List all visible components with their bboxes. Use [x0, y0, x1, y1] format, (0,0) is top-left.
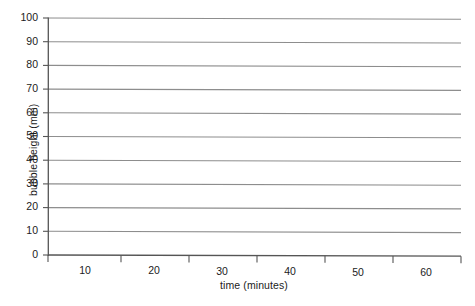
- y-tick-label-20: 20: [4, 200, 38, 212]
- gridline-20: [48, 208, 461, 209]
- x-axis-line: [48, 255, 461, 256]
- y-tick-label-0: 0: [4, 248, 38, 260]
- gridline-30: [48, 184, 461, 185]
- gridlines-horizontal: [48, 18, 461, 233]
- x-tick-label-60: 60: [406, 266, 446, 278]
- x-tick-label-20: 20: [134, 264, 174, 276]
- chart-plot-area: [0, 0, 475, 306]
- x-tick-label-50: 50: [338, 266, 378, 278]
- gridline-70: [48, 89, 461, 90]
- y-axis-label: bubble height (mm): [25, 0, 41, 196]
- x-tick-label-40: 40: [270, 265, 310, 277]
- gridline-60: [48, 113, 461, 114]
- gridline-10: [48, 231, 461, 232]
- x-tick-label-10: 10: [65, 264, 105, 276]
- x-axis-label: time (minutes): [48, 279, 460, 291]
- gridline-90: [48, 42, 461, 43]
- x-tick-label-30: 30: [202, 265, 242, 277]
- chart-container: 100 90 80 70 60 50 40 30 20 10 0 10 20 3…: [0, 0, 475, 306]
- gridline-80: [48, 65, 461, 66]
- gridline-40: [48, 160, 461, 161]
- y-tick-marks: [43, 18, 48, 255]
- y-tick-label-10: 10: [4, 224, 38, 236]
- gridline-100: [48, 18, 461, 19]
- gridline-50: [48, 137, 461, 138]
